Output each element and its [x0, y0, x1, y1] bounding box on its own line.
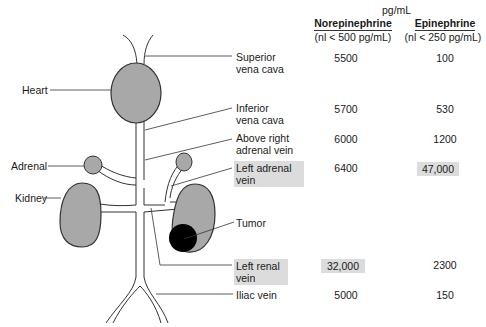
heart-shape: [111, 63, 161, 123]
epinephrine-normal-range: (nl < 250 pg/mL): [399, 31, 486, 43]
ne-left-adrenal-vein: 6400: [321, 162, 371, 174]
site-iliac-vein: Iliac vein: [236, 289, 277, 301]
left-jugular-vessel: [123, 35, 137, 64]
right-adrenal-vein: [97, 163, 136, 185]
unit-label: pg/mL: [382, 4, 411, 16]
epi-superior-vena-cava: 100: [415, 52, 475, 64]
epi-inferior-vena-cava: 530: [415, 103, 475, 115]
heart-label: Heart: [22, 84, 48, 96]
ne-inferior-vena-cava: 5700: [321, 103, 371, 115]
ivc-leader: [145, 108, 232, 130]
ne-superior-vena-cava: 5500: [321, 52, 371, 64]
adrenal-label: Adrenal: [11, 160, 47, 172]
left-adrenal-shape: [176, 153, 192, 171]
site-left-renal-vein: Left renal vein: [234, 259, 288, 285]
norepinephrine-header: Norepinephrine: [300, 17, 406, 29]
tumor-shape: [169, 224, 197, 252]
site-above-right-adrenal-vein: Above right adrenal vein: [236, 132, 293, 156]
epi-iliac-vein: 150: [415, 289, 475, 301]
ne-left-renal-vein: 32,000: [321, 259, 365, 273]
site-tumor: Tumor: [236, 217, 266, 229]
epi-left-adrenal-vein: 47,000: [417, 162, 459, 176]
kidney-label: Kidney: [15, 192, 47, 204]
ivc-right-wall: [144, 120, 168, 323]
epi-left-renal-vein: 2300: [415, 259, 475, 271]
site-left-adrenal-vein: Left adrenal vein: [234, 161, 304, 187]
right-jugular-vessel: [144, 35, 153, 64]
epinephrine-header: Epinephrine: [405, 17, 485, 29]
ne-above-right-adrenal: 6000: [321, 133, 371, 145]
site-inferior-vena-cava: Inferior vena cava: [236, 102, 284, 126]
ivc-left-wall: [106, 120, 136, 323]
epi-above-right-adrenal: 1200: [415, 133, 475, 145]
right-renal-vein: [100, 204, 136, 212]
site-superior-vena-cava: Superior vena cava: [236, 51, 284, 75]
ne-iliac-vein: 5000: [321, 289, 371, 301]
left-adrenal-leader: [171, 168, 232, 186]
left-renal-vein: [144, 202, 178, 212]
norepinephrine-normal-range: (nl < 500 pg/mL): [300, 31, 406, 43]
right-adrenal-shape: [84, 156, 102, 174]
right-kidney-shape: [60, 183, 101, 247]
